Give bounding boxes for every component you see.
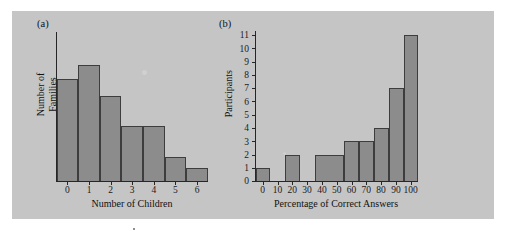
figure-container: (a) Number of Families 0 1 2 3 4 5 6 xyxy=(0,0,506,238)
panel-a-bar-4 xyxy=(143,126,165,181)
panel-a-bar-3 xyxy=(121,126,143,181)
panel-b-bar-20 xyxy=(285,155,300,182)
panel-b-bar-80 xyxy=(374,128,389,181)
panel-a-bar-6 xyxy=(186,168,208,181)
panel-b-ytick-7 xyxy=(252,88,255,89)
paper-speck xyxy=(142,70,147,75)
page-artifact-dot xyxy=(133,228,135,230)
panel-b-bar-90 xyxy=(389,88,404,181)
panel-a-bar-2 xyxy=(100,96,122,181)
panel-a-y-axis-title: Number of Families xyxy=(35,55,58,135)
panel-a-xlabel-1: 1 xyxy=(79,185,99,195)
panel-b-bar-100 xyxy=(404,35,419,181)
panel-b-ylabel-6: 6 xyxy=(228,97,249,107)
panel-b-ytick-11 xyxy=(252,35,255,36)
panel-a-xlabel-0: 0 xyxy=(57,185,77,195)
panel-a-x-axis-title: Number of Children xyxy=(52,198,212,209)
panel-b-ylabel-3: 3 xyxy=(228,137,249,147)
panel-a-xlabel-6: 6 xyxy=(187,185,207,195)
panel-b-letter: (b) xyxy=(219,18,231,29)
panel-b-ytick-5 xyxy=(252,115,255,116)
panel-b-ytick-4 xyxy=(252,128,255,129)
panel-a-letter: (a) xyxy=(37,18,49,29)
panel-b-bar-60 xyxy=(344,141,359,181)
panel-b-ylabel-1: 1 xyxy=(228,163,249,173)
panel-b-bar-0 xyxy=(256,168,270,181)
panel-b-ylabel-2: 2 xyxy=(228,150,249,160)
panel-b-ylabel-0: 0 xyxy=(228,176,249,186)
panel-b-ytick-2 xyxy=(252,155,255,156)
panel-b-bar-70 xyxy=(359,141,374,181)
panel-b-ytick-0 xyxy=(252,181,255,182)
panel-b-ytick-8 xyxy=(252,75,255,76)
panel-b-ytick-3 xyxy=(252,141,255,142)
panel-a-bar-1 xyxy=(78,65,100,181)
panel-b-bar-40-50 xyxy=(315,155,345,182)
panel-b-xlabel-100: 100 xyxy=(400,185,421,195)
panel-b-ylabel-5: 5 xyxy=(228,110,249,120)
panel-b-ylabel-9: 9 xyxy=(228,57,249,67)
panel-b-ylabel-11: 11 xyxy=(228,30,249,40)
panel-b-x-axis-title: Percentage of Correct Answers xyxy=(251,198,421,209)
panel-a-xlabel-4: 4 xyxy=(144,185,164,195)
panel-a-bar-5 xyxy=(165,157,187,181)
panel-b-ylabel-10: 10 xyxy=(228,44,249,54)
panel-b-ytick-10 xyxy=(252,48,255,49)
panel-a-bar-0 xyxy=(57,79,79,181)
panel-a-xlabel-2: 2 xyxy=(101,185,121,195)
panel-b-ytick-6 xyxy=(252,101,255,102)
panel-a-xlabel-3: 3 xyxy=(122,185,142,195)
panel-b-ylabel-7: 7 xyxy=(228,83,249,93)
panel-a-xlabel-5: 5 xyxy=(165,185,185,195)
panel-b-ylabel-4: 4 xyxy=(228,123,249,133)
panel-b-ytick-1 xyxy=(252,168,255,169)
panel-b-ylabel-8: 8 xyxy=(228,70,249,80)
panel-a-y-axis-title-line1: Number of xyxy=(35,73,46,117)
panel-b-y-axis xyxy=(255,31,256,182)
panel-b-ytick-9 xyxy=(252,62,255,63)
